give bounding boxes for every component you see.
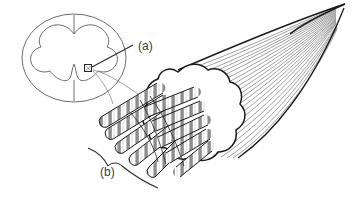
label-b: (b) — [100, 165, 115, 179]
figure-canvas: (a) (b) — [0, 0, 352, 202]
anatomical-figure: (a) (b) — [0, 0, 352, 202]
label-a: (a) — [138, 39, 153, 53]
spinal-cord-cross-section — [22, 14, 126, 102]
